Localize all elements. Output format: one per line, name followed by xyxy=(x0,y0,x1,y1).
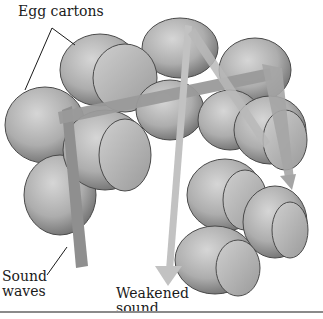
egg-carton-leader-line xyxy=(25,28,52,90)
egg-cartons-label: Egg cartons xyxy=(18,4,104,19)
sound-waves-label: Sound waves xyxy=(2,269,47,299)
diagram-illustration xyxy=(0,0,323,319)
egg-carton-cups xyxy=(5,18,308,296)
bottom-divider xyxy=(0,311,323,313)
sound-wave-leader-line xyxy=(47,247,67,275)
egg-carton-sound-diagram: Egg cartons Sound waves Weakened sound xyxy=(0,0,323,319)
egg-carton-leader-line-2 xyxy=(52,28,75,45)
